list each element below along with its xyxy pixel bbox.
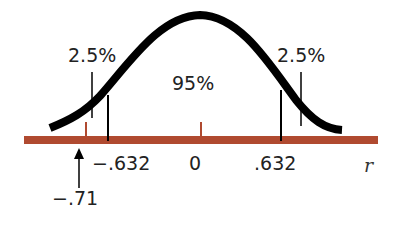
normal-curve-diagram: 2.5% 95% 2.5% −.632 0 .632 r −.71 bbox=[0, 0, 399, 225]
right-critical-label: .632 bbox=[254, 152, 296, 174]
observed-value-label: −.71 bbox=[52, 187, 98, 209]
axis-variable-label: r bbox=[364, 154, 375, 176]
arrow-up-icon bbox=[74, 148, 84, 159]
center-percent-label: 95% bbox=[172, 72, 214, 94]
right-tail-label: 2.5% bbox=[277, 44, 325, 66]
left-critical-label: −.632 bbox=[92, 152, 150, 174]
zero-label: 0 bbox=[189, 152, 201, 174]
left-tail-label: 2.5% bbox=[68, 44, 116, 66]
axis-bar bbox=[24, 136, 378, 144]
